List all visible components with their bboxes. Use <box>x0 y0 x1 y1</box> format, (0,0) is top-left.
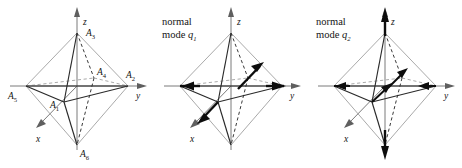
x-axis-label: x <box>189 134 195 144</box>
edge-A3-A5 <box>180 33 231 86</box>
y-axis-arrowhead <box>445 83 455 89</box>
edge-A2-A6 <box>385 86 436 145</box>
vertex-label-A2: A2 <box>125 70 135 82</box>
edge-A4-A2-dashed <box>94 78 128 86</box>
vertex-label-A3: A3 <box>85 28 96 40</box>
mode-caption-line2: mode q2 <box>316 29 351 42</box>
panel-normal-mode-q1: z y x normal mode q1 <box>154 0 308 168</box>
x-axis-line <box>196 86 231 122</box>
displacement-arrow-A1-down-left <box>197 102 218 124</box>
edge-A2-A6 <box>77 86 128 145</box>
vertex-label-A4: A4 <box>96 67 107 79</box>
panel-normal-mode-q2: z y x normal mode q2 <box>308 0 462 168</box>
edge-A3-A2 <box>231 33 282 86</box>
edge-A3-A1 <box>218 33 231 102</box>
x-axis-line <box>42 86 77 122</box>
displacement-arrow-A3-up <box>381 8 389 36</box>
edge-A5-A6 <box>26 86 77 145</box>
edge-A3-A2 <box>385 33 436 86</box>
edge-A3-A4-dashed <box>77 33 94 78</box>
edge-A5-A1 <box>180 86 218 102</box>
displacement-arrow-A4-up-right <box>238 62 264 89</box>
vertex-label-A1: A1 <box>49 100 59 112</box>
x-axis-arrowhead <box>190 119 200 128</box>
edge-A1-A6 <box>64 102 77 145</box>
edge-A5-A1 <box>26 86 64 102</box>
mode-caption-line1: normal <box>162 16 192 27</box>
displacement-arrow-A4-up-right <box>388 68 408 88</box>
z-axis-label: z <box>236 17 241 27</box>
z-axis-label: z <box>390 17 395 27</box>
y-axis-label: y <box>135 91 141 101</box>
mode-caption-line1: normal <box>316 16 346 27</box>
y-axis-arrowhead <box>137 83 147 89</box>
edge-A3-A1 <box>64 33 77 102</box>
edge-A1-A6 <box>372 102 385 145</box>
vertex-label-A6: A6 <box>79 149 90 161</box>
edge-A5-A6 <box>334 86 385 145</box>
edge-A1-A6 <box>218 102 231 145</box>
z-axis-arrowhead <box>228 7 234 17</box>
edge-A4-A2-dashed <box>402 78 436 86</box>
edge-A2-A6 <box>231 86 282 145</box>
z-axis-arrowhead <box>74 7 80 17</box>
x-axis-label: x <box>35 134 41 144</box>
mode-caption-line2: mode q1 <box>162 29 197 42</box>
vertex-label-A5: A5 <box>7 91 18 103</box>
y-axis-arrowhead <box>291 83 301 89</box>
x-axis-arrowhead <box>36 119 46 128</box>
edge-A5-A1 <box>334 86 372 102</box>
z-axis-label: z <box>82 17 87 27</box>
y-axis-label: y <box>289 91 295 101</box>
x-axis-label: x <box>343 134 349 144</box>
x-axis-arrowhead <box>344 119 354 128</box>
edge-A3-A5 <box>334 33 385 86</box>
edge-A5-A4-dashed <box>26 78 94 86</box>
edge-A3-A5 <box>26 33 77 86</box>
edge-A3-A4-dashed <box>231 33 248 78</box>
octahedron-normal-modes-figure: A3 A2 A5 A6 A1 A4 z y x <box>0 0 462 168</box>
panel-octahedron-labels: A3 A2 A5 A6 A1 A4 z y x <box>0 0 154 168</box>
x-axis-line <box>350 86 385 122</box>
y-axis-label: y <box>443 91 449 101</box>
edge-A1-A2 <box>64 86 128 102</box>
